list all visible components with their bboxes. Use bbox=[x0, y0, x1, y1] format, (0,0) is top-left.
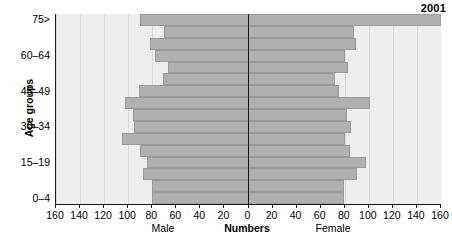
male-caption: Male bbox=[118, 222, 208, 234]
x-tick-mark bbox=[127, 204, 128, 208]
x-tick-mark bbox=[199, 204, 200, 208]
y-tick-label: 15–19 bbox=[0, 157, 50, 168]
x-tick-mark bbox=[320, 204, 321, 208]
numbers-caption: Numbers bbox=[202, 222, 292, 234]
x-tick-mark bbox=[368, 204, 369, 208]
y-tick-label: 75> bbox=[0, 14, 50, 25]
x-tick-mark bbox=[416, 204, 417, 208]
x-tick-mark bbox=[392, 204, 393, 208]
y-tick-labels: 75>60–6445–4930–3415–190–4 bbox=[0, 0, 452, 237]
x-tick-mark bbox=[296, 204, 297, 208]
y-tick-label: 0–4 bbox=[0, 193, 50, 204]
x-tick-mark bbox=[103, 204, 104, 208]
x-tick-mark bbox=[223, 204, 224, 208]
x-tick-mark bbox=[55, 204, 56, 208]
zero-axis-line bbox=[248, 14, 249, 204]
female-caption: Female bbox=[288, 222, 378, 234]
x-tick-mark bbox=[272, 204, 273, 208]
y-tick-label: 60–64 bbox=[0, 50, 50, 61]
y-tick-label: 45–49 bbox=[0, 86, 50, 97]
x-tick-mark bbox=[151, 204, 152, 208]
x-tick-mark bbox=[79, 204, 80, 208]
x-tick-mark bbox=[344, 204, 345, 208]
x-tick-label: 160 bbox=[425, 209, 452, 221]
population-pyramid-figure: 2001 Age groups 75>60–6445–4930–3415–190… bbox=[0, 0, 452, 237]
x-tick-mark bbox=[248, 204, 249, 208]
y-tick-label: 30–34 bbox=[0, 121, 50, 132]
x-tick-mark bbox=[175, 204, 176, 208]
x-tick-mark bbox=[440, 204, 441, 208]
